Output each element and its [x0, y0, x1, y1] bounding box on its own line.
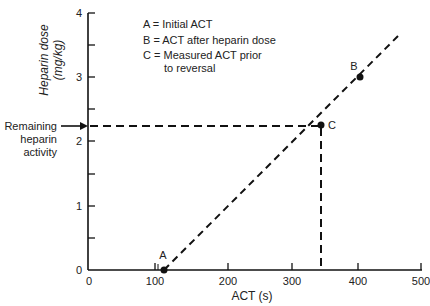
- point-a: [161, 267, 168, 274]
- x-tick-label: 500: [412, 275, 430, 287]
- legend-entry-c-cont: to reversal: [164, 62, 215, 74]
- y-tick-labels: 4 3 2 1 0: [76, 7, 82, 276]
- y-tick-label: 4: [76, 7, 82, 19]
- legend-entry-c: C = Measured ACT prior: [143, 49, 262, 61]
- remaining-heparin-annotation: Remaining heparin activity: [4, 120, 57, 158]
- point-c: [318, 122, 325, 129]
- point-c-label: C: [328, 119, 336, 131]
- x-tick-label: 200: [219, 275, 237, 287]
- y-tick-label: 3: [76, 71, 82, 83]
- legend: A = Initial ACT B = ACT after heparin do…: [143, 18, 276, 74]
- x-ticks: [155, 263, 421, 270]
- x-tick-label: 300: [283, 275, 301, 287]
- heparin-dose-response-chart: 4 3 2 1 0 0 100 200 300 400 500 ACT (s) …: [0, 0, 430, 306]
- point-a-label: A: [159, 249, 167, 261]
- annotation-line2: heparin: [20, 133, 57, 145]
- y-axis-label: Heparin dose (mg/kg): [37, 24, 65, 96]
- annotation-line1: Remaining: [4, 120, 57, 132]
- annotation-arrow-icon: [61, 122, 88, 130]
- x-tick-label: 100: [146, 275, 164, 287]
- x-tick-labels: 0 100 200 300 400 500: [86, 275, 430, 287]
- annotation-line3: activity: [23, 146, 57, 158]
- legend-entry-b: B = ACT after heparin dose: [143, 34, 276, 46]
- y-axis-label-line2: (mg/kg): [51, 40, 65, 81]
- x-axis-label: ACT (s): [231, 289, 272, 303]
- legend-entry-a: A = Initial ACT: [143, 18, 213, 30]
- y-axis-label-line1: Heparin dose: [37, 24, 51, 96]
- x-tick-label: 0: [86, 275, 92, 287]
- y-tick-label: 0: [76, 264, 82, 276]
- x-tick-label: 400: [349, 275, 367, 287]
- point-b: [357, 74, 364, 81]
- y-tick-label: 2: [76, 135, 82, 147]
- y-tick-label: 1: [76, 200, 82, 212]
- point-b-label: B: [350, 60, 357, 72]
